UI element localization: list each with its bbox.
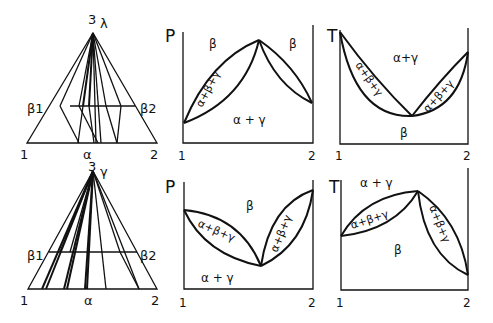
bottom-p-x-right: 2 xyxy=(308,296,316,310)
bottom-t-axis-label: T xyxy=(328,177,340,197)
bottom-t-region-beta: β xyxy=(394,243,402,257)
bottom-p-axis-label: P xyxy=(165,177,175,197)
top-triangle-beta2-label: β2 xyxy=(140,101,157,116)
top-triangle-apex-label: 3 xyxy=(88,12,96,27)
bottom-triangle-apex-label: 3 xyxy=(88,159,96,174)
bottom-p-x-left: 1 xyxy=(179,296,187,310)
top-triangle-vertex-2: 2 xyxy=(150,147,158,162)
bottom-triangle-alpha-label: α xyxy=(84,293,93,308)
bottom-p-region-beta: β xyxy=(246,199,254,213)
bottom-triangle-beta2-label: β2 xyxy=(140,248,157,263)
top-triangle-apex-phase: λ xyxy=(100,16,108,31)
bottom-p-region-three-phase-right: α+β+γ xyxy=(268,212,295,254)
top-p-x-right: 2 xyxy=(308,149,316,163)
bottom-p-region-alpha-gamma: α + γ xyxy=(201,271,234,285)
bottom-triangle-beta1-label: β1 xyxy=(27,248,44,263)
top-t-region-alpha-gamma: α+γ xyxy=(393,51,418,65)
top-p-x-left: 1 xyxy=(178,149,186,163)
bottom-t-x-left: 1 xyxy=(336,296,344,310)
top-p-region-beta-right: β xyxy=(289,37,297,51)
top-p-axis-label: P xyxy=(165,26,175,46)
bottom-t-region-alpha-gamma: α + γ xyxy=(360,176,393,190)
top-triangle-beta1-label: β1 xyxy=(27,101,44,116)
top-t-region-beta: β xyxy=(400,126,408,140)
phase-diagram-figure: 3 λ β1 β2 1 α 2 P 1 2 β β α+β+γ α + γ T … xyxy=(0,0,493,323)
top-ternary-triangle xyxy=(27,33,157,143)
top-t-axis-label: T xyxy=(326,26,338,46)
top-t-x-left: 1 xyxy=(335,149,343,163)
bottom-t-region-three-phase-left: α+β+γ xyxy=(349,207,391,232)
top-triangle-vertex-1: 1 xyxy=(20,147,28,162)
top-p-region-alpha-gamma: α + γ xyxy=(233,113,266,127)
bottom-triangle-vertex-1: 1 xyxy=(20,293,28,308)
top-t-x-right: 2 xyxy=(463,149,471,163)
bottom-ternary-triangle xyxy=(28,171,157,289)
bottom-triangle-apex-phase: γ xyxy=(100,164,108,179)
bottom-p-region-three-phase-left: α+β+γ xyxy=(196,217,238,245)
bottom-triangle-vertex-2: 2 xyxy=(151,293,159,308)
top-t-region-three-phase-left: α+β+γ xyxy=(353,59,386,99)
top-p-region-beta-left: β xyxy=(209,37,217,51)
bottom-t-x-right: 2 xyxy=(463,296,471,310)
